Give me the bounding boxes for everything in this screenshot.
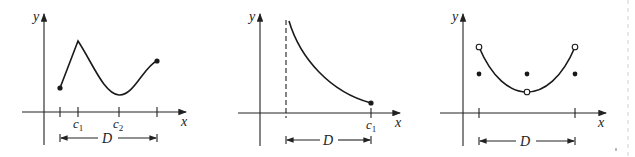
closed-endpoint-c1 bbox=[368, 100, 373, 105]
tick-label-c1: c1 bbox=[73, 116, 83, 133]
y-axis-label: y bbox=[450, 9, 459, 24]
closed-endpoint-right bbox=[154, 58, 159, 63]
tick-label-c1: c1 bbox=[366, 117, 376, 134]
y-axis-label: y bbox=[31, 9, 40, 24]
x-axis-label: x bbox=[180, 114, 188, 129]
domain-label: D bbox=[519, 134, 530, 149]
panel-3-discontinuous-graph: y x D bbox=[440, 9, 606, 149]
open-endpoint-right bbox=[572, 44, 578, 50]
domain-bracket: D bbox=[479, 134, 575, 149]
open-vertex bbox=[524, 89, 530, 95]
point-left bbox=[477, 72, 482, 77]
x-axis-label: x bbox=[394, 115, 402, 130]
function-curve bbox=[479, 47, 575, 92]
domain-label: D bbox=[101, 131, 112, 146]
domain-bracket: D bbox=[286, 133, 371, 148]
open-endpoint-left bbox=[476, 44, 482, 50]
function-curve bbox=[289, 21, 371, 103]
closed-endpoint-left bbox=[57, 85, 62, 90]
y-axis-label: y bbox=[247, 9, 256, 24]
scan-speck bbox=[615, 148, 617, 151]
figure-canvas: y x c1 c2 D y x c1 bbox=[0, 0, 635, 157]
point-right bbox=[573, 72, 578, 77]
point-middle bbox=[525, 72, 530, 77]
tick-label-c2: c2 bbox=[113, 116, 123, 133]
function-curve bbox=[60, 41, 157, 95]
domain-bracket: D bbox=[60, 131, 157, 146]
domain-label: D bbox=[322, 133, 333, 148]
panel-2-asymptote-graph: y x c1 D bbox=[238, 9, 402, 148]
panel-1-cusp-graph: y x c1 c2 D bbox=[22, 9, 188, 146]
x-axis-label: x bbox=[597, 115, 605, 130]
